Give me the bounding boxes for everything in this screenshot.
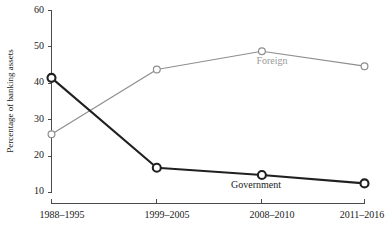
y-tick-label-40: 40 <box>34 76 44 87</box>
x-tick-label-0: 1988–1995 <box>40 209 85 220</box>
series-label-government: Government <box>231 179 281 190</box>
x-tick-label-1: 1999–2005 <box>145 209 190 220</box>
data-point-marker <box>48 131 55 138</box>
y-axis-title: Percentage of banking assets <box>5 49 15 153</box>
government-line-path <box>52 78 365 184</box>
x-axis-tick-labels: 1988–1995 1999–2005 2008–2010 2011–2016 <box>40 209 385 220</box>
y-axis-ticks <box>48 11 52 193</box>
y-axis-tick-labels: 60 50 40 30 20 10 <box>34 4 44 196</box>
y-tick-label-10: 10 <box>34 185 44 196</box>
series-foreign <box>48 48 368 138</box>
data-point-marker <box>361 179 369 187</box>
data-point-marker <box>153 66 160 73</box>
x-axis-ticks <box>52 199 365 204</box>
x-tick-label-3: 2011–2016 <box>340 209 385 220</box>
y-tick-label-50: 50 <box>34 40 44 51</box>
y-tick-label-20: 20 <box>34 149 44 160</box>
series-label-foreign: Foreign <box>256 55 287 66</box>
foreign-line-path <box>52 51 365 134</box>
y-tick-label-30: 30 <box>34 113 44 124</box>
series-government <box>48 74 369 188</box>
line-chart: 60 50 40 30 20 10 Percentage of banking … <box>0 0 390 237</box>
y-tick-label-60: 60 <box>34 4 44 15</box>
foreign-markers <box>48 48 368 138</box>
data-point-marker <box>258 171 266 179</box>
chart-canvas: 60 50 40 30 20 10 Percentage of banking … <box>0 0 390 237</box>
data-point-marker <box>361 63 368 70</box>
data-point-marker <box>48 74 56 82</box>
data-point-marker <box>259 48 266 55</box>
data-point-marker <box>153 164 161 172</box>
x-tick-label-2: 2008–2010 <box>250 209 295 220</box>
